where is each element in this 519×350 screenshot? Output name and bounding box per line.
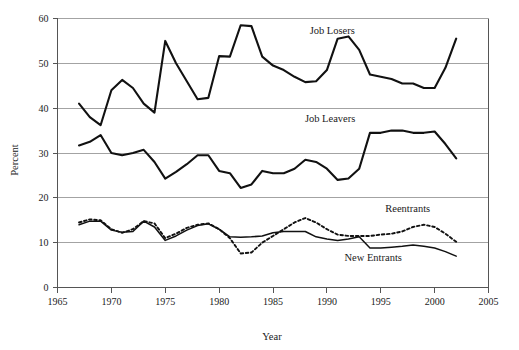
x-tick-label-2005: 2005	[479, 296, 499, 307]
y-tick-label-10: 10	[39, 237, 49, 248]
series-label-new-entrants: New Entrants	[344, 252, 401, 263]
y-tick-label-60: 60	[39, 13, 49, 24]
x-tick-label-1990: 1990	[317, 296, 337, 307]
y-tick-label-30: 30	[39, 148, 49, 159]
line-chart: 0102030405060 19651970197519801985199019…	[0, 0, 519, 350]
y-tick-label-50: 50	[39, 58, 49, 69]
x-tick-label-2000: 2000	[425, 296, 445, 307]
series-label-job-leavers: Job Leavers	[305, 113, 355, 124]
y-tick-label-0: 0	[44, 282, 49, 293]
x-tick-label-1980: 1980	[209, 296, 229, 307]
x-tick-label-1970: 1970	[101, 296, 121, 307]
y-axis-title: Percent	[9, 144, 20, 176]
y-tick-label-40: 40	[39, 103, 49, 114]
x-tick-label-1985: 1985	[263, 296, 283, 307]
x-tick-label-1965: 1965	[48, 296, 68, 307]
x-axis-tick-labels: 196519701975198019851990199520002005	[48, 296, 499, 307]
x-axis-title: Year	[262, 331, 282, 342]
chart-container: 0102030405060 19651970197519801985199019…	[0, 0, 519, 350]
x-tick-label-1975: 1975	[155, 296, 175, 307]
series-label-reentrants: Reentrants	[385, 203, 430, 214]
series-label-job-losers: Job Losers	[310, 25, 355, 36]
y-tick-label-20: 20	[39, 192, 49, 203]
x-tick-label-1995: 1995	[371, 296, 391, 307]
